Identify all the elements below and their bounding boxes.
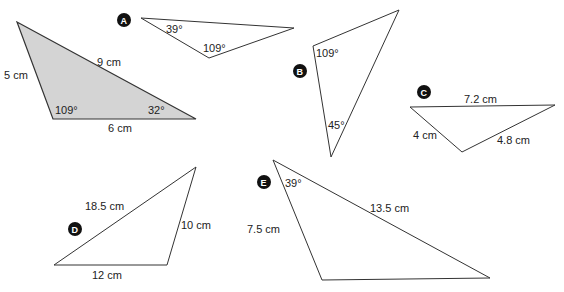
angle-label: 109° [203,42,226,54]
angle-label: 39° [285,177,302,189]
badge-b-letter: B [297,67,304,77]
angle-label: 45° [328,119,345,131]
triangle-e: E 39° 7.5 cm 13.5 cm [247,160,490,280]
triangles-diagram: 5 cm 9 cm 6 cm 109° 32° A 39° 109° B 109… [0,0,564,292]
side-label: 7.5 cm [247,223,280,235]
side-label: 10 cm [181,219,211,231]
reference-triangle: 5 cm 9 cm 6 cm 109° 32° [4,22,196,134]
side-left-label: 5 cm [4,69,28,81]
badge-a-letter: A [121,16,128,26]
side-top-label: 9 cm [97,56,121,68]
triangle-a: A 39° 109° [117,13,294,58]
angle-label: 109° [316,47,339,59]
angle-bottom-left-label: 109° [55,104,78,116]
badge-c-letter: C [421,88,428,98]
triangle-d: D 18.5 cm 10 cm 12 cm [54,167,211,281]
badge-e-letter: E [261,178,267,188]
side-label: 12 cm [92,269,122,281]
badge-d-letter: D [72,225,79,235]
side-label: 13.5 cm [370,202,409,214]
side-label: 4 cm [413,129,437,141]
side-label: 18.5 cm [85,200,124,212]
side-label: 4.8 cm [497,134,530,146]
angle-label: 39° [166,23,183,35]
side-bottom-label: 6 cm [108,122,132,134]
triangle-c: C 7.2 cm 4 cm 4.8 cm [410,85,555,152]
angle-bottom-right-label: 32° [148,104,165,116]
side-label: 7.2 cm [464,93,497,105]
triangle-b: B 109° 45° [293,10,399,157]
